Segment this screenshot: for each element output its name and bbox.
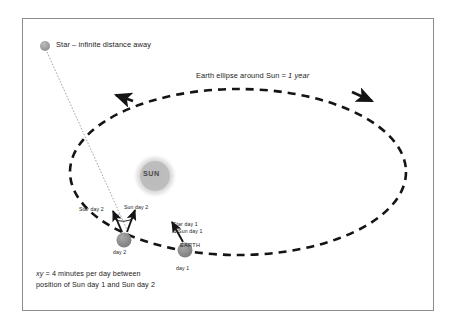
earth-day-2-label: day 2: [113, 249, 126, 256]
star-day-2-label: Star day 2: [79, 206, 104, 213]
orbit-direction-arrow-right: [352, 92, 372, 101]
star-body: [40, 41, 50, 51]
star-day-1-line: Star day 1: [173, 221, 202, 228]
earth-label: EARTH: [180, 242, 200, 249]
star-label: Star – infinite distance away: [56, 40, 151, 49]
diagram-caption: xy = 4 minutes per day between position …: [36, 269, 155, 291]
xy-angle-label: xy: [114, 212, 119, 218]
orbit-direction-arrow-left: [116, 95, 133, 101]
earth-day2-body: [117, 233, 132, 248]
caption-line-1: xy = 4 minutes per day between: [36, 269, 155, 280]
earth-day-1-label: day 1: [176, 265, 189, 272]
star-sun-day-1-label: Star day 1 & Sun day 1: [173, 221, 202, 234]
sun-day-2-label: Sun day 2: [124, 204, 148, 211]
caption-line-2: position of Sun day 1 and Sun day 2: [36, 280, 155, 291]
orbit-period-text: Earth ellipse around Sun =: [196, 71, 288, 80]
star-sight-line: [47, 52, 128, 232]
sun-day-1-line: & Sun day 1: [173, 228, 202, 235]
sun-label: SUN: [143, 169, 160, 178]
orbit-period-value: 1 year: [288, 71, 309, 80]
orbit-period-label: Earth ellipse around Sun = 1 year: [196, 71, 309, 80]
diagram-canvas: Star – infinite distance away Earth elli…: [0, 0, 459, 329]
caption-line-1-text: = 4 minutes per day between: [43, 269, 140, 278]
